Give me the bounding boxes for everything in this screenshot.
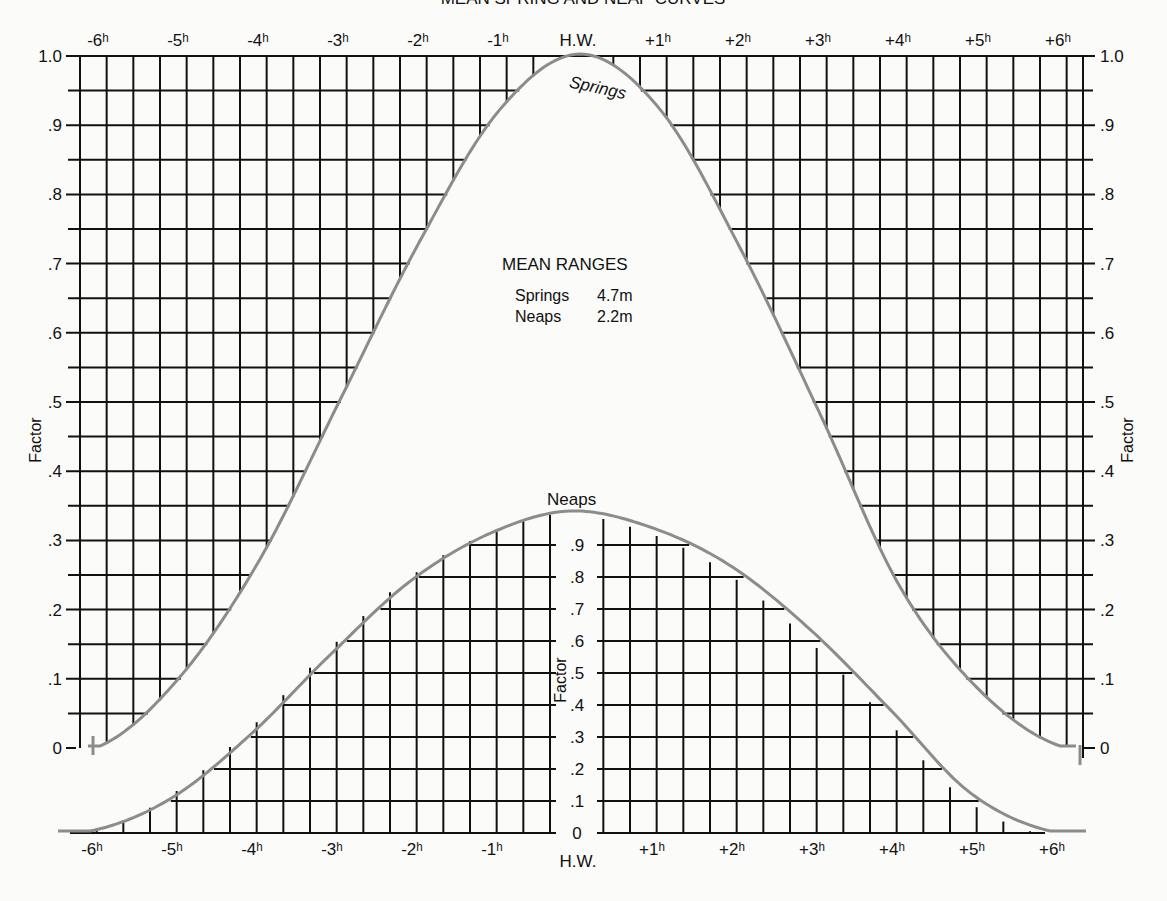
neaps-y-tick: .3 [570, 728, 584, 747]
springs-curve-label: Springs [568, 73, 629, 104]
bottom-hour-label: -3ʰ [321, 840, 343, 859]
top-hour-label: +6ʰ [1045, 31, 1071, 50]
top-hour-label: -3ʰ [327, 31, 349, 50]
neaps-y-tick: .4 [570, 696, 584, 715]
top-hour-label: H.W. [560, 31, 597, 50]
chart-title: MEAN SPRING AND NEAP CURVES [441, 0, 726, 8]
springs-y-tick-right: .3 [1100, 531, 1114, 550]
springs-y-tick-right: .2 [1100, 601, 1114, 620]
bottom-hour-label: -6ʰ [81, 840, 103, 859]
bottom-hour-label: +3ʰ [799, 840, 825, 859]
springs-y-tick-left: .5 [48, 393, 62, 412]
springs-range-value: 4.7m [597, 287, 633, 304]
neaps-y-tick: .1 [570, 792, 584, 811]
top-hour-label: +3ʰ [805, 31, 831, 50]
top-hour-label: +4ʰ [885, 31, 911, 50]
neaps-y-tick: .6 [570, 632, 584, 651]
springs-y-tick-left: .9 [48, 116, 62, 135]
springs-y-tick-left: .4 [48, 462, 62, 481]
neaps-curve-label: Neaps [547, 490, 596, 509]
top-hour-label: +2ʰ [725, 31, 751, 50]
springs-y-tick-left: 1.0 [38, 47, 62, 66]
right-factor-axis-label: Factor [1119, 417, 1136, 463]
springs-y-tick-right: .7 [1100, 255, 1114, 274]
bottom-hour-label: +6ʰ [1039, 840, 1065, 859]
left-factor-axis-label: Factor [27, 417, 44, 463]
neaps-y-tick: 0 [572, 824, 581, 843]
neaps-range-value: 2.2m [597, 308, 633, 325]
top-hour-label: -4ʰ [247, 31, 269, 50]
top-hour-label: +5ʰ [965, 31, 991, 50]
neaps-y-tick: .9 [570, 536, 584, 555]
top-hour-label: -2ʰ [407, 31, 429, 50]
springs-y-tick-right: .8 [1100, 185, 1114, 204]
neaps-y-tick: .5 [570, 664, 584, 683]
neaps-factor-axis-label: Factor [552, 657, 569, 703]
neaps-y-tick: .7 [570, 600, 584, 619]
springs-y-tick-left: .7 [48, 255, 62, 274]
springs-y-tick-right: 1.0 [1100, 47, 1124, 66]
bottom-hour-label: -1ʰ [481, 840, 503, 859]
top-hour-label: -6ʰ [87, 31, 109, 50]
springs-y-tick-right: 0 [1100, 739, 1109, 758]
mean-ranges-heading: MEAN RANGES [502, 255, 628, 274]
bottom-hour-label: +5ʰ [959, 840, 985, 859]
springs-y-tick-left: .1 [48, 670, 62, 689]
springs-y-tick-left: .2 [48, 601, 62, 620]
springs-y-tick-right: .6 [1100, 324, 1114, 343]
bottom-hw-label: H.W. [560, 852, 597, 871]
axis-labels [93, 736, 1080, 765]
mean-ranges-box: MEAN RANGES Springs 4.7m Neaps 2.2m [502, 255, 633, 325]
neaps-y-tick: .2 [570, 760, 584, 779]
top-hour-label: +1ʰ [645, 31, 671, 50]
bottom-hour-label: -4ʰ [241, 840, 263, 859]
springs-y-tick-left: .6 [48, 324, 62, 343]
bottom-hour-label: +2ʰ [719, 840, 745, 859]
tidal-curves-chart: 00.1.1.2.2.3.3.4.4.5.5.6.6.7.7.8.8.9.91.… [0, 0, 1167, 901]
bottom-hour-label: -2ʰ [401, 840, 423, 859]
neaps-y-tick: .8 [570, 568, 584, 587]
neaps-range-label: Neaps [515, 308, 561, 325]
springs-y-tick-left: .3 [48, 531, 62, 550]
springs-y-tick-right: .4 [1100, 462, 1114, 481]
springs-y-tick-left: .8 [48, 185, 62, 204]
top-hour-label: -1ʰ [487, 31, 509, 50]
bottom-hour-label: -5ʰ [161, 840, 183, 859]
top-hour-label: -5ʰ [167, 31, 189, 50]
bottom-hour-label: +4ʰ [879, 840, 905, 859]
springs-y-tick-right: .9 [1100, 116, 1114, 135]
springs-y-tick-right: .1 [1100, 670, 1114, 689]
springs-y-tick-left: 0 [53, 739, 62, 758]
bottom-hour-label: +1ʰ [639, 840, 665, 859]
springs-range-label: Springs [515, 287, 569, 304]
springs-y-tick-right: .5 [1100, 393, 1114, 412]
